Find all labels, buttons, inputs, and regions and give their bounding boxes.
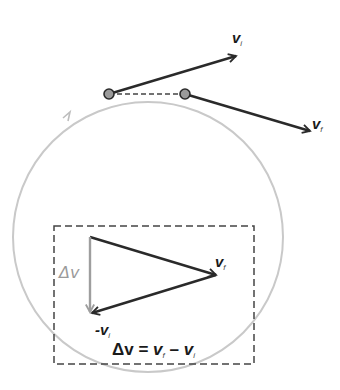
label-vf-triangle: vf — [215, 254, 226, 272]
label-vf-top: vf — [312, 116, 323, 134]
label-neg-vi-main: -v — [95, 321, 108, 338]
label-vf-sub: f — [320, 125, 322, 134]
triangle-neg-vi — [92, 275, 216, 313]
equation-minus: – — [165, 340, 184, 359]
equation-equals: = — [134, 340, 153, 359]
equation-vi: v — [184, 340, 193, 359]
triangle-vf — [90, 237, 216, 275]
point-initial — [104, 89, 114, 99]
vector-vi — [109, 56, 236, 94]
diagram-canvas — [0, 0, 340, 390]
equation-lhs: Δv — [112, 340, 134, 359]
equation-vi-sub: i — [193, 351, 195, 360]
point-final — [180, 89, 190, 99]
equation-delta-v: Δv = vf – vi — [112, 340, 195, 360]
vector-vf — [185, 94, 310, 131]
label-delta-v: Δv — [59, 263, 79, 282]
label-neg-vi: -vi — [95, 322, 110, 340]
equation-vf: v — [153, 340, 162, 359]
label-vi-top: vi — [232, 30, 242, 48]
label-vf-triangle-sub: f — [223, 263, 225, 272]
direction-arrow-icon — [63, 112, 70, 121]
label-neg-vi-sub: i — [108, 331, 110, 340]
label-vi-sub: i — [240, 39, 242, 48]
